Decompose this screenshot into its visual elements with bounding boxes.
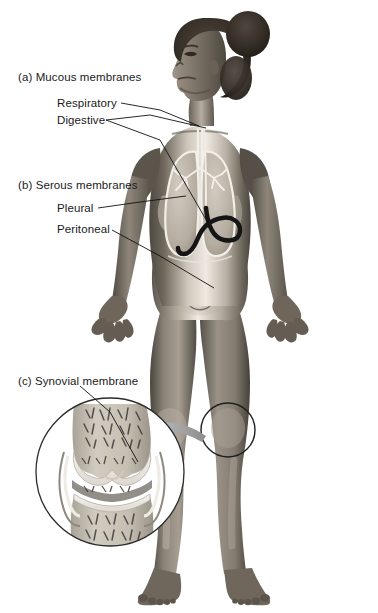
right-arm [250,176,288,302]
right-hand [266,296,308,342]
illustration-artwork [0,0,378,613]
label-synovial-membrane: (c) Synovial membrane [18,375,138,387]
hair-bun [226,11,270,57]
label-digestive: Digestive [57,114,105,126]
label-serous-membranes: (b) Serous membranes [18,179,138,191]
label-respiratory: Respiratory [57,97,117,109]
right-knee [211,408,245,448]
anatomy-figure-panel: (a) Mucous membranes Respiratory Digesti… [0,0,378,613]
hair-nape [220,56,252,100]
synovial-joint-inset [36,398,184,546]
left-hand [91,296,133,342]
left-arm [112,176,150,302]
head [172,11,270,101]
leader-respiratory [121,103,199,126]
feet [138,568,270,605]
label-pleural: Pleural [57,202,94,214]
label-peritoneal: Peritoneal [57,223,110,235]
label-mucous-membranes: (a) Mucous membranes [18,71,141,83]
